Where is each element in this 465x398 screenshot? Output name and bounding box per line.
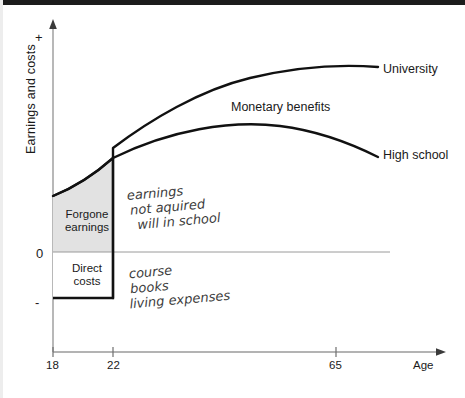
university-curve-label: University — [383, 62, 438, 76]
y-axis-zero-label: 0 — [36, 246, 43, 261]
x-axis-tick-label-18: 18 — [46, 359, 59, 371]
direct-costs-label: Direct costs — [57, 262, 117, 288]
y-axis-arrowhead — [49, 19, 57, 29]
y-axis-title: Earnings and costs — [24, 24, 38, 174]
forgone-earnings-region — [53, 158, 113, 252]
handwritten-note-direct-costs: course books living expenses — [128, 258, 230, 311]
forgone-earnings-label-line1: Forgone — [57, 208, 117, 221]
direct-costs-label-line1: Direct — [57, 262, 117, 275]
x-axis-tick-label-65: 65 — [329, 359, 342, 371]
x-axis-title: Age — [413, 359, 433, 371]
x-axis-tick-label-22: 22 — [107, 359, 120, 371]
direct-costs-label-line2: costs — [57, 275, 117, 288]
forgone-earnings-label: Forgone earnings — [57, 208, 117, 234]
monetary-benefits-label: Monetary benefits — [231, 100, 330, 114]
chart-page: Earnings and costs + 0 - 18 22 65 Age Un… — [0, 0, 465, 398]
x-axis-arrowhead — [436, 348, 446, 356]
forgone-earnings-label-line2: earnings — [57, 221, 117, 234]
y-axis-minus-label: - — [35, 295, 39, 310]
handwritten-note-forgone-earnings: earnings not aquired will in school — [126, 180, 221, 233]
earnings-costs-figure — [0, 0, 465, 398]
y-axis-plus-label: + — [35, 30, 43, 45]
high-school-curve-label: High school — [383, 148, 448, 162]
